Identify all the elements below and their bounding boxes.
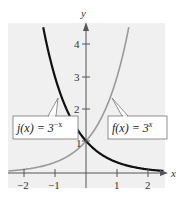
label-j-exponent: −x <box>54 120 63 129</box>
label-j-text: j(x) = 3 <box>15 121 54 135</box>
y-tick-label: 2 <box>74 103 80 115</box>
y-tick-label: 3 <box>74 71 80 83</box>
label-f: f(x) = 3x <box>112 120 153 135</box>
label-f-text: f(x) = 3 <box>112 121 149 135</box>
y-tick-label: 4 <box>74 38 80 50</box>
exponential-functions-chart: x y −2 −1 1 2 2 3 4 1 j(x) = 3−x f(x) <box>0 0 181 198</box>
x-tick-label: −2 <box>17 179 29 191</box>
label-f-exponent: x <box>148 120 153 129</box>
x-axis-label: x <box>170 167 176 179</box>
y-axis-label: y <box>80 7 86 19</box>
x-tick-label: 1 <box>114 179 120 191</box>
x-tick-label: −1 <box>48 179 60 191</box>
x-tick-label: 2 <box>145 179 151 191</box>
